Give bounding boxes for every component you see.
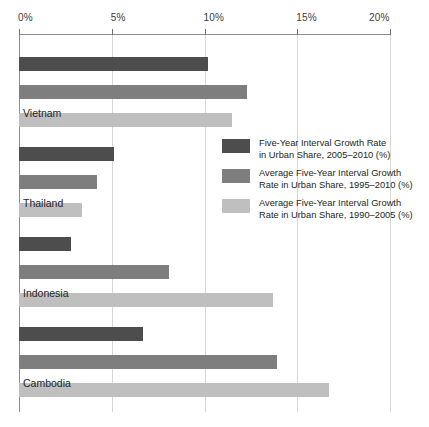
tick-mark-10pct <box>205 29 206 35</box>
category-label-vietnam: Vietnam <box>23 107 61 119</box>
legend: Five-Year Interval Growth Rate in Urban … <box>222 138 413 229</box>
legend-swatch <box>222 199 250 213</box>
bar-row <box>19 71 390 85</box>
tick-mark-20pct <box>390 29 391 35</box>
x-axis-tick-label: 20% <box>369 12 390 23</box>
bar-row <box>19 85 390 99</box>
bar-group-vietnam: Vietnam <box>19 57 390 99</box>
bar-row <box>19 237 390 251</box>
legend-swatch <box>222 169 250 183</box>
bar[interactable] <box>19 57 208 71</box>
category-label-cambodia: Cambodia <box>23 377 71 389</box>
tick-mark-15pct <box>297 29 298 35</box>
bar-group-indonesia: Indonesia <box>19 237 390 279</box>
legend-swatch <box>222 139 250 153</box>
legend-item[interactable]: Average Five-Year Interval Growth Rate i… <box>222 198 413 221</box>
x-axis-tick-label: 10% <box>204 12 225 23</box>
legend-label: Average Five-Year Interval Growth Rate i… <box>259 168 413 191</box>
bar-row <box>19 265 390 279</box>
tick-mark-5pct <box>112 29 113 35</box>
legend-label: Average Five-Year Interval Growth Rate i… <box>259 198 413 221</box>
bar-group-cambodia: Cambodia <box>19 327 390 369</box>
bar-row <box>19 57 390 71</box>
legend-label: Five-Year Interval Growth Rate in Urban … <box>259 138 390 161</box>
tick-mark-0pct <box>19 29 20 35</box>
legend-item[interactable]: Average Five-Year Interval Growth Rate i… <box>222 168 413 191</box>
x-axis-tick-label: 0% <box>18 12 33 23</box>
bar-row <box>19 341 390 355</box>
bar-row <box>19 327 390 341</box>
bar[interactable] <box>19 147 114 161</box>
bar[interactable] <box>19 237 71 251</box>
bar-row <box>19 251 390 265</box>
x-axis-tick-label: 5% <box>111 12 126 23</box>
legend-item[interactable]: Five-Year Interval Growth Rate in Urban … <box>222 138 413 161</box>
category-label-thailand: Thailand <box>23 197 63 209</box>
bar[interactable] <box>19 327 143 341</box>
bar-chart: 0%5%10%15%20% VietnamThailandIndonesiaCa… <box>0 0 429 427</box>
bar-row <box>19 355 390 369</box>
category-label-indonesia: Indonesia <box>23 287 69 299</box>
x-axis-tick-label: 15% <box>296 12 317 23</box>
